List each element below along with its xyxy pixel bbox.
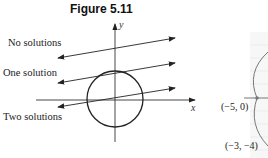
label-two-solutions: Two solutions (3, 111, 62, 122)
line-no-solutions (58, 38, 175, 58)
label-point-neg3-neg4: (−3, −4) (225, 140, 258, 151)
point-neg5-0 (255, 96, 259, 100)
label-no-solutions: No solutions (8, 37, 61, 48)
label-one-solution: One solution (3, 67, 57, 78)
y-axis-label: y (119, 19, 123, 30)
label-point-neg5-0: (−5, 0) (221, 101, 248, 112)
x-axis-label: x (191, 102, 195, 113)
diagram-canvas (0, 0, 268, 158)
line-one-solution (58, 63, 175, 83)
line-two-solutions (58, 88, 175, 107)
